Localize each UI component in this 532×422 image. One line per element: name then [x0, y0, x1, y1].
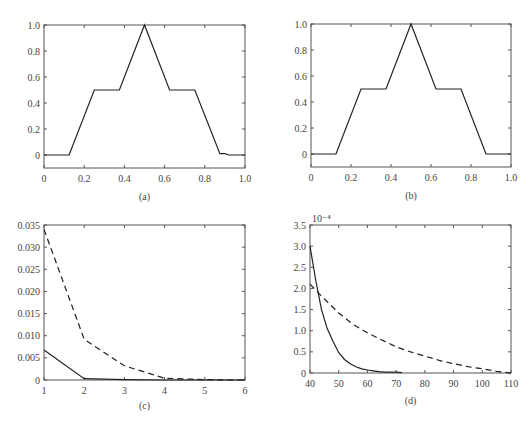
series-solid-line [310, 246, 402, 373]
y-tick-label: 0.6 [28, 72, 41, 83]
axes-frame [310, 225, 511, 373]
series-solid-line [44, 350, 245, 380]
chart-a: 00.20.40.60.81.000.20.40.60.81.0(a) [28, 20, 252, 204]
x-tick-label: 60 [362, 378, 372, 389]
y-tick-label: 1.5 [294, 304, 307, 315]
series-solid-line [311, 24, 511, 154]
y-tick-label: 0.015 [18, 308, 41, 319]
x-tick-label: 80 [420, 378, 430, 389]
y-tick-label: 0.4 [28, 98, 41, 109]
subfigure-caption: (a) [139, 191, 150, 203]
x-tick-label: 5 [202, 385, 207, 396]
axes-frame [44, 25, 245, 168]
y-tick-label: 0 [35, 375, 40, 386]
x-tick-label: 70 [391, 378, 401, 389]
y-tick-label: 0.010 [18, 330, 41, 341]
figure-canvas: 00.20.40.60.81.000.20.40.60.81.0(a)00.20… [0, 0, 532, 422]
chart-b: 00.20.40.60.81.000.20.40.60.81.0(b) [295, 19, 518, 203]
x-tick-label: 3 [122, 385, 127, 396]
y-tick-label: 0.2 [28, 124, 41, 135]
axes-frame [44, 225, 245, 380]
subfigure-caption: (c) [139, 400, 150, 412]
x-tick-label: 50 [334, 378, 344, 389]
chart-c: 12345600.0050.0100.0150.0200.0250.0300.0… [18, 220, 248, 413]
y-tick-label: 0.005 [18, 352, 41, 363]
x-tick-label: 2 [82, 385, 87, 396]
y-tick-label: 0.8 [28, 46, 41, 57]
x-tick-label: 0 [42, 173, 47, 184]
x-tick-label: 6 [243, 385, 248, 396]
y-tick-label: 1.0 [28, 20, 41, 31]
x-tick-label: 4 [162, 385, 167, 396]
y-scale-exponent: 10⁻⁴ [312, 213, 331, 224]
x-tick-label: 0.8 [465, 172, 478, 183]
y-tick-label: 0.6 [295, 71, 308, 82]
y-tick-label: 0.5 [294, 346, 307, 357]
subfigure-caption: (b) [405, 190, 417, 202]
subfigure-caption: (d) [405, 395, 417, 407]
x-tick-label: 1 [42, 385, 47, 396]
y-tick-label: 0.8 [295, 45, 308, 56]
x-tick-label: 0.2 [78, 173, 91, 184]
x-tick-label: 1.0 [239, 173, 252, 184]
y-tick-label: 0.020 [18, 286, 41, 297]
x-tick-label: 0.4 [385, 172, 398, 183]
y-tick-label: 2.0 [294, 283, 307, 294]
y-tick-label: 0.030 [18, 242, 41, 253]
series-solid-line [44, 25, 245, 155]
x-tick-label: 40 [305, 378, 315, 389]
x-tick-label: 100 [475, 378, 490, 389]
y-tick-label: 0.035 [18, 220, 41, 231]
x-tick-label: 0.2 [345, 172, 358, 183]
y-tick-label: 0 [35, 150, 40, 161]
axes-frame [311, 24, 511, 167]
y-tick-label: 0.025 [18, 264, 41, 275]
x-tick-label: 110 [504, 378, 519, 389]
x-tick-label: 1.0 [505, 172, 518, 183]
series-dashed-line [310, 284, 511, 373]
x-tick-label: 90 [449, 378, 459, 389]
y-tick-label: 0.4 [295, 97, 308, 108]
chart-d: 40506070809010011000.51.01.52.02.53.03.5… [294, 213, 519, 407]
y-tick-label: 3.5 [294, 220, 307, 231]
y-tick-label: 2.5 [294, 262, 307, 273]
y-tick-label: 1.0 [294, 325, 307, 336]
x-tick-label: 0 [309, 172, 314, 183]
x-tick-label: 0.6 [425, 172, 438, 183]
x-tick-label: 0.6 [158, 173, 171, 184]
y-tick-label: 3.0 [294, 241, 307, 252]
x-tick-label: 0.4 [118, 173, 131, 184]
y-tick-label: 1.0 [295, 19, 308, 30]
x-tick-label: 0.8 [199, 173, 212, 184]
y-tick-label: 0 [302, 149, 307, 160]
y-tick-label: 0 [301, 368, 306, 379]
y-tick-label: 0.2 [295, 123, 308, 134]
series-dashed-line [44, 229, 245, 380]
